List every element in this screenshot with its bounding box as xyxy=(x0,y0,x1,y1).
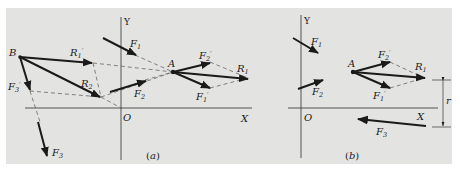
vector-f2-b xyxy=(298,80,323,89)
vector-f2-prime-b xyxy=(353,62,390,72)
label-f2-prime-b: F2′ xyxy=(377,49,391,62)
label-f3-a: F3 xyxy=(51,147,63,160)
force-diagram: Y X O B A xyxy=(0,0,460,174)
panel-b: Y X O F1 F2 A F2′ F1′ R1 F3 r (b) xyxy=(288,15,452,161)
y-axis-label-a: Y xyxy=(123,17,131,27)
label-f1-prime-a: F1′ xyxy=(195,91,209,104)
label-f1-prime-b: F1′ xyxy=(372,90,386,103)
dimension-r-label: r xyxy=(446,95,452,106)
caption-b: (b) xyxy=(345,150,359,161)
vector-f3-b xyxy=(358,119,426,126)
label-f2-a: F2 xyxy=(133,88,145,101)
y-axis-label-b: Y xyxy=(303,16,311,26)
vector-f2-prime-a xyxy=(173,63,210,72)
label-f2-prime-a: F2′ xyxy=(198,50,212,63)
label-r1-b: R1 xyxy=(414,61,427,74)
label-f2-b: F2 xyxy=(311,86,323,99)
origin-label-b: O xyxy=(304,112,312,123)
label-r1-prime-a: R1′ xyxy=(69,47,84,60)
caption-a: (a) xyxy=(146,150,160,161)
label-f1-b: F1 xyxy=(310,36,322,49)
vector-f3-a xyxy=(38,122,47,156)
origin-label-a: O xyxy=(123,112,131,123)
panel-a: Y X O B A xyxy=(7,17,252,161)
x-axis-label-a: X xyxy=(240,113,249,124)
point-b-label: B xyxy=(8,47,16,58)
x-axis-label-b: X xyxy=(416,111,425,122)
label-f3-b: F3 xyxy=(375,126,387,139)
point-a-label-a: A xyxy=(167,58,175,69)
label-f1-a: F1 xyxy=(129,38,141,51)
label-f3-prime-a: F3′ xyxy=(7,81,21,94)
point-a-label-b: A xyxy=(347,58,355,69)
